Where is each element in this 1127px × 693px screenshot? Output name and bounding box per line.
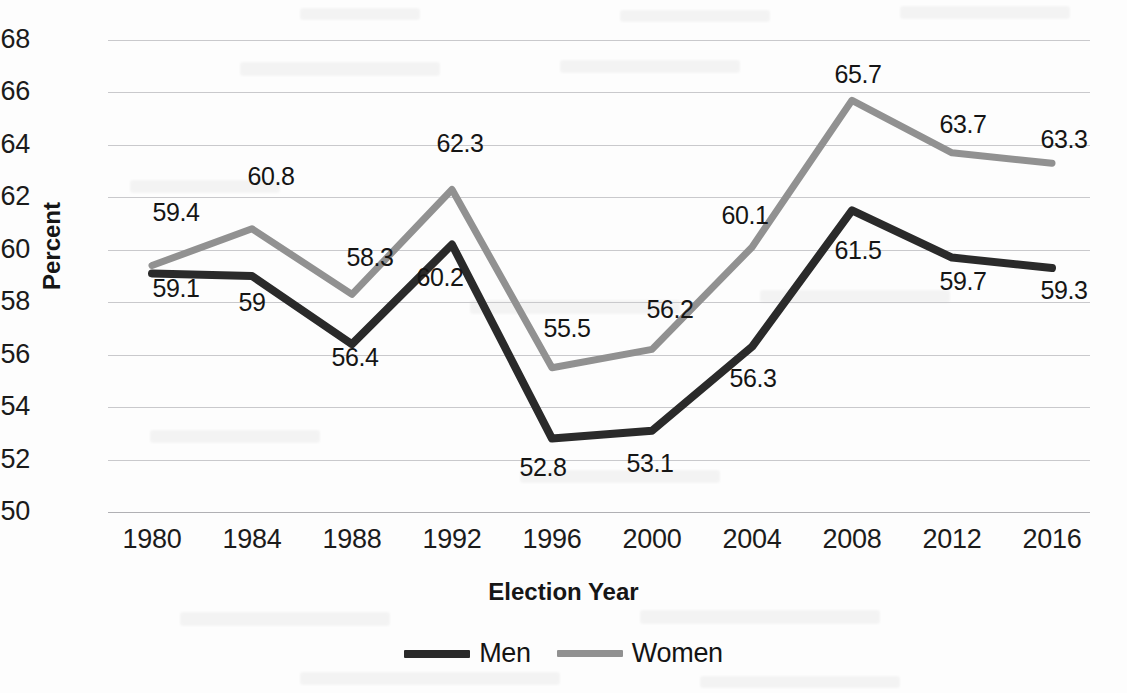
x-tick-label: 1980	[97, 524, 207, 555]
x-tick-label: 2000	[597, 524, 707, 555]
x-tick-label: 1984	[197, 524, 307, 555]
x-tick-label: 1988	[297, 524, 407, 555]
y-tick-label: 62	[0, 181, 30, 212]
scan-artifact	[640, 610, 880, 624]
scan-artifact	[620, 10, 770, 22]
y-axis-title: Percent	[38, 186, 66, 306]
chart-figure: Percent 68 66 64 62 60 58 56 54 52 50 19…	[0, 0, 1127, 693]
data-label-men: 60.2	[416, 263, 463, 292]
data-label-women: 63.3	[1040, 125, 1087, 154]
x-tick-label: 1996	[497, 524, 607, 555]
legend-label-men: Men	[479, 638, 531, 669]
x-tick-label: 1992	[397, 524, 507, 555]
data-label-women: 58.3	[346, 243, 393, 272]
series-line-women	[152, 100, 1052, 368]
data-label-men: 59.1	[152, 274, 199, 303]
data-label-men: 56.3	[729, 364, 776, 393]
y-tick-label: 66	[0, 76, 30, 107]
scan-artifact	[180, 612, 390, 626]
data-label-women: 56.2	[646, 295, 693, 324]
data-label-men: 59.3	[1040, 276, 1087, 305]
data-label-women: 60.1	[721, 201, 768, 230]
data-label-men: 52.8	[519, 453, 566, 482]
legend-label-women: Women	[632, 638, 723, 669]
data-label-men: 56.4	[331, 343, 378, 372]
y-tick-label: 54	[0, 391, 30, 422]
data-label-men: 61.5	[834, 236, 881, 265]
data-label-women: 55.5	[543, 314, 590, 343]
axis-line-x	[108, 512, 1090, 513]
legend-item-men[interactable]: Men	[404, 638, 531, 669]
data-label-men: 53.1	[626, 449, 673, 478]
data-label-women: 59.4	[152, 198, 199, 227]
legend-item-women[interactable]: Women	[557, 638, 723, 669]
x-tick-label: 2008	[797, 524, 907, 555]
scan-artifact	[300, 8, 420, 20]
data-label-women: 62.3	[436, 129, 483, 158]
x-tick-label: 2012	[897, 524, 1007, 555]
series-line-men	[152, 210, 1052, 438]
data-label-women: 65.7	[834, 60, 881, 89]
y-tick-label: 60	[0, 234, 30, 265]
data-label-men: 59	[238, 288, 265, 317]
legend-swatch-men	[404, 650, 470, 658]
y-tick-label: 58	[0, 286, 30, 317]
y-tick-label: 50	[0, 496, 30, 527]
x-tick-label: 2016	[997, 524, 1107, 555]
x-axis-title: Election Year	[0, 578, 1127, 606]
scan-artifact	[300, 672, 560, 685]
y-tick-label: 56	[0, 339, 30, 370]
data-label-women: 60.8	[247, 162, 294, 191]
y-tick-label: 52	[0, 444, 30, 475]
scan-artifact	[700, 676, 900, 688]
y-tick-label: 68	[0, 24, 30, 55]
scan-artifact	[900, 6, 1070, 19]
legend: Men Women	[0, 638, 1127, 669]
data-label-men: 59.7	[939, 267, 986, 296]
legend-swatch-women	[557, 650, 623, 657]
x-tick-label: 2004	[697, 524, 807, 555]
data-label-women: 63.7	[939, 110, 986, 139]
y-tick-label: 64	[0, 129, 30, 160]
